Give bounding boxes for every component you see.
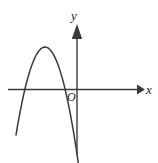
origin-label: O [67,91,76,103]
y-axis-label: y [71,9,77,22]
y-axis-arrowhead [72,24,82,39]
x-axis-label: x [146,83,152,96]
graph-canvas [0,0,158,163]
x-axis-arrowhead [137,85,145,95]
parabola-curve [16,47,85,163]
parabola-figure: y x O [0,0,158,163]
